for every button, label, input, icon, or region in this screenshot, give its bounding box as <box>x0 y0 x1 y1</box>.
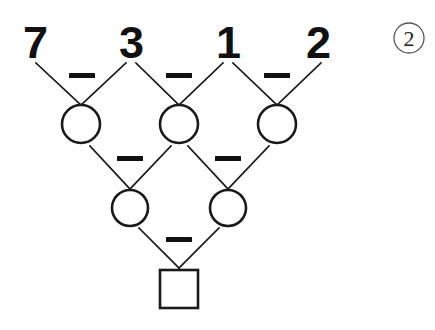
connector-line-2-to-c3 <box>277 63 321 105</box>
minus-icon-2-2 <box>215 156 241 161</box>
given-number-4: 2 <box>306 17 330 68</box>
answer-circles-row-3 <box>112 190 246 226</box>
operator-bars-level-3 <box>166 237 192 242</box>
subtraction-pyramid-worksheet: 7 3 1 2 2 <box>0 0 435 330</box>
answer-square-final[interactable] <box>160 270 198 308</box>
answer-circle-r2-c3[interactable] <box>258 105 296 143</box>
answer-circles-row-2 <box>62 105 296 143</box>
problem-number-label: 2 <box>404 26 415 51</box>
given-number-1: 7 <box>23 17 47 68</box>
connector-line-1-to-c3 <box>233 63 277 105</box>
answer-circle-r3-c1[interactable] <box>112 190 148 226</box>
connector-line-3-to-c1 <box>81 63 126 105</box>
minus-icon-1-1 <box>69 73 95 78</box>
connectors-level-2 <box>90 146 269 189</box>
minus-icon-1-2 <box>166 73 192 78</box>
minus-icon-1-3 <box>264 73 290 78</box>
connectors-level-3 <box>139 228 219 268</box>
given-number-2: 3 <box>119 17 143 68</box>
answer-circle-r2-c2[interactable] <box>160 105 198 143</box>
connector-line-d1-to-final <box>139 228 179 268</box>
connector-line-c2-to-d2 <box>188 146 228 189</box>
connector-line-c2-to-d1 <box>130 146 171 189</box>
connector-line-7-to-c1 <box>36 63 81 105</box>
connector-line-d2-to-final <box>179 228 219 268</box>
given-numbers-row: 7 3 1 2 <box>23 17 330 68</box>
answer-circle-r2-c1[interactable] <box>62 105 100 143</box>
problem-number-marker: 2 <box>394 23 424 53</box>
minus-icon-2-1 <box>117 156 143 161</box>
connector-line-c3-to-d2 <box>228 146 269 189</box>
operator-bars-level-1 <box>69 73 290 78</box>
given-number-3: 1 <box>216 17 240 68</box>
connector-line-1-to-c2 <box>179 63 223 105</box>
operator-bars-level-2 <box>117 156 241 161</box>
puzzle-canvas: 7 3 1 2 2 <box>0 0 435 330</box>
minus-icon-3-1 <box>166 237 192 242</box>
connector-line-3-to-c2 <box>136 63 179 105</box>
connectors-level-1 <box>36 63 321 105</box>
answer-circle-r3-c2[interactable] <box>210 190 246 226</box>
connector-line-c1-to-d1 <box>90 146 130 189</box>
